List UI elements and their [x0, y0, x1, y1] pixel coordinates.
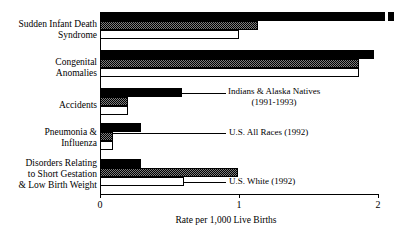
bar-accidents-all-races [100, 97, 128, 106]
bar-congenital-white [100, 68, 359, 77]
bar-sids-natives [100, 12, 385, 21]
category-label-accidents: Accidents [59, 100, 97, 111]
category-label-sids-line2: Syndrome [18, 30, 97, 41]
bar-disorders-all-races [100, 168, 238, 177]
category-label-congenital-line1: Congenital [55, 57, 97, 68]
leader-line-all-races [113, 133, 226, 134]
bar-congenital-natives [100, 50, 374, 59]
x-tick-label-1: 1 [237, 199, 242, 210]
x-tick-label-2: 2 [376, 199, 381, 210]
category-label-disorders-line1: Disorders Relating [19, 158, 98, 169]
x-axis-title-text: Rate per 1,000 Live Births [175, 215, 276, 225]
category-label-pneumonia-line1: Pneumonia & [44, 127, 97, 138]
category-label-disorders-line3: & Low Birth Weight [19, 180, 98, 191]
bar-sids-white [100, 30, 239, 39]
legend-label-all-races: U.S. All Races (1992) [229, 127, 308, 138]
category-label-congenital: Congenital Anomalies [55, 57, 97, 79]
bar-pneumonia-natives [100, 123, 141, 132]
bar-disorders-white [100, 177, 184, 186]
bar-pneumonia-all-races [100, 132, 113, 141]
legend-label-white: U.S. White (1992) [229, 176, 295, 187]
leader-line-white [184, 182, 226, 183]
bar-disorders-natives [100, 159, 141, 168]
bar-sids-marker-chip [388, 12, 394, 21]
bar-sids-all-races [100, 21, 258, 30]
bar-congenital-all-races [100, 59, 359, 68]
legend-label-natives: Indians & Alaska Natives (1991-1993) [228, 86, 320, 108]
x-axis-title: Rate per 1,000 Live Births [0, 215, 392, 225]
y-axis-line [100, 12, 101, 194]
x-tick-1 [239, 194, 240, 198]
category-label-sids: Sudden Infant Death Syndrome [18, 19, 97, 41]
bar-accidents-natives [100, 88, 182, 97]
legend-label-natives-line1: Indians & Alaska Natives [228, 86, 320, 97]
category-label-disorders-line2: to Short Gestation [19, 169, 98, 180]
bar-accidents-white [100, 106, 128, 115]
category-label-congenital-line2: Anomalies [55, 68, 97, 79]
category-label-sids-line1: Sudden Infant Death [18, 19, 97, 30]
x-tick-2 [378, 194, 379, 198]
category-label-disorders: Disorders Relating to Short Gestation & … [19, 158, 98, 191]
category-label-pneumonia: Pneumonia & Influenza [44, 127, 97, 149]
bar-pneumonia-white [100, 141, 113, 150]
category-label-pneumonia-line2: Influenza [44, 138, 97, 149]
leader-line-natives [182, 93, 226, 94]
x-tick-0 [100, 194, 101, 198]
legend-label-natives-line2: (1991-1993) [228, 97, 320, 108]
x-tick-label-0: 0 [98, 199, 103, 210]
category-label-accidents-line1: Accidents [59, 100, 97, 111]
